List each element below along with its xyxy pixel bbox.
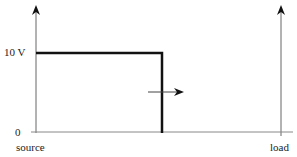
label-zero: 0 — [15, 126, 21, 138]
label-load: load — [270, 141, 289, 153]
label-10v: 10 V — [4, 46, 26, 58]
diagram-canvas: 10 V 0 source load — [0, 0, 297, 157]
label-source: source — [16, 141, 45, 153]
diagram-svg — [0, 0, 297, 157]
voltage-step-signal — [36, 53, 162, 133]
